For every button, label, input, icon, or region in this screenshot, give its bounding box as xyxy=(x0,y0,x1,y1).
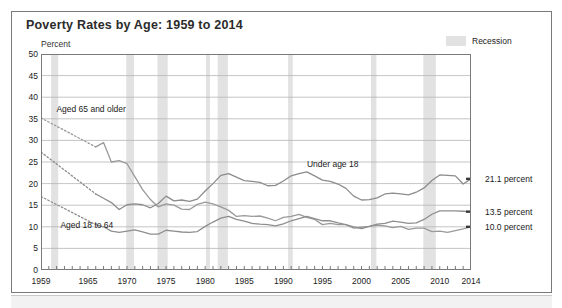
x-tick-2010: 2010 xyxy=(430,276,449,286)
legend-item-recession: Recession xyxy=(472,36,512,46)
y-tick-45: 45 xyxy=(16,71,38,81)
y-tick-30: 30 xyxy=(16,135,38,145)
annotation-under-age-18: Under age 18 xyxy=(307,159,359,169)
x-tick-1959: 1959 xyxy=(32,276,51,286)
legend: Recession xyxy=(446,36,512,46)
page-title: Poverty Rates by Age: 1959 to 2014 xyxy=(26,18,243,32)
recession-swatch-icon xyxy=(446,36,466,46)
y-tick-50: 50 xyxy=(16,49,38,59)
y-axis-label: Percent xyxy=(41,39,70,49)
x-tick-1995: 1995 xyxy=(313,276,332,286)
x-tick-1975: 1975 xyxy=(157,276,176,286)
x-tick-1965: 1965 xyxy=(78,276,97,286)
x-tick-1970: 1970 xyxy=(118,276,137,286)
page-footer-strip xyxy=(11,295,552,308)
y-tick-15: 15 xyxy=(16,200,38,210)
x-tick-2000: 2000 xyxy=(352,276,371,286)
plot-frame xyxy=(41,54,471,270)
x-tick-2005: 2005 xyxy=(391,276,410,286)
end-label-aged-65: 10.0 percent xyxy=(485,222,532,232)
annotation-aged-18-to-64: Aged 18 to 64 xyxy=(60,220,113,230)
x-tick-2014: 2014 xyxy=(462,276,481,286)
x-axis-ticks: 1959196519701975198019851990199520002005… xyxy=(41,276,501,290)
y-tick-35: 35 xyxy=(16,114,38,124)
y-tick-20: 20 xyxy=(16,179,38,189)
y-tick-5: 5 xyxy=(16,243,38,253)
y-tick-10: 10 xyxy=(16,222,38,232)
plot-area xyxy=(41,54,471,270)
x-tick-1990: 1990 xyxy=(274,276,293,286)
annotation-aged-65-and-older: Aged 65 and older xyxy=(56,104,125,114)
end-label-aged-18-64: 13.5 percent xyxy=(485,207,532,217)
y-tick-40: 40 xyxy=(16,92,38,102)
y-tick-0: 0 xyxy=(16,265,38,275)
page-top-strip xyxy=(0,0,562,10)
y-tick-25: 25 xyxy=(16,157,38,167)
x-tick-1980: 1980 xyxy=(196,276,215,286)
y-axis-ticks: 50454035302520151050 xyxy=(14,54,38,270)
end-label-under-18: 21.1 percent xyxy=(485,174,532,184)
x-tick-1985: 1985 xyxy=(235,276,254,286)
